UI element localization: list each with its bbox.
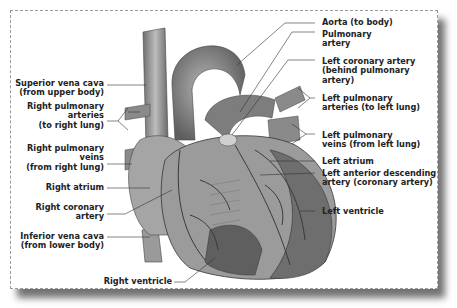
label-inferior-vena-cava: Inferior vena cava (from lower body) — [10, 232, 104, 251]
label-right-pulmonary-veins: Right pulmonary veins (from right lung) — [10, 144, 104, 172]
label-superior-vena-cava: Superior vena cava (from upper body) — [10, 79, 104, 98]
aorta-shape — [172, 46, 245, 140]
label-left-pulmonary-arteries: Left pulmonary arteries (to left lung) — [322, 94, 420, 113]
label-right-coronary-artery: Right coronary artery — [10, 203, 104, 222]
label-left-atrium: Left atrium — [322, 157, 374, 166]
label-right-pulmonary-arteries: Right pulmonary arteries (to right lung) — [10, 102, 104, 130]
label-left-pulmonary-veins: Left pulmonary veins (from left lung) — [322, 131, 420, 150]
label-left-coronary-artery: Left coronary artery (behind pulmonary a… — [322, 57, 415, 85]
label-left-ventricle: Left ventricle — [322, 207, 384, 216]
label-right-atrium: Right atrium — [10, 183, 104, 192]
superior-vena-cava-shape — [143, 28, 168, 145]
label-aorta: Aorta (to body) — [322, 18, 393, 27]
label-pulmonary-artery: Pulmonary artery — [322, 30, 372, 49]
pulmonary-artery-shape — [205, 95, 275, 140]
label-right-ventricle: Right ventricle — [100, 277, 172, 286]
label-left-anterior-descending-artery: Left anterior descending artery (coronar… — [322, 169, 436, 188]
